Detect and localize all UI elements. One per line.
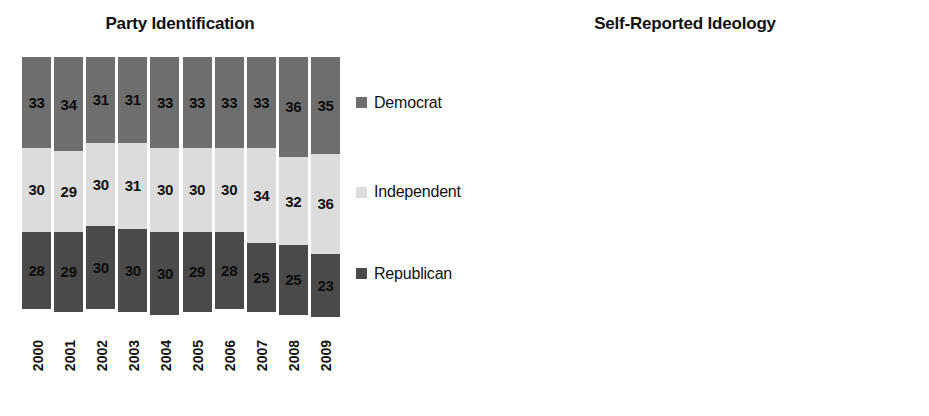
chart-title-party-identification: Party Identification <box>0 14 360 34</box>
x-axis-year-label: 2008 <box>286 340 302 371</box>
bar-column[interactable]: 333425 <box>247 57 276 334</box>
bar-segment-democrat[interactable]: 33 <box>247 57 276 148</box>
bar-column[interactable]: 363225 <box>279 57 308 334</box>
x-axis-year-label: 2007 <box>254 340 270 371</box>
x-axis-year-label: 2004 <box>158 340 174 371</box>
bar-segment-republican[interactable]: 30 <box>118 229 147 312</box>
bar-value-label: 31 <box>125 92 141 107</box>
bar-value-label: 30 <box>125 263 141 278</box>
x-axis-year-label: 2009 <box>318 340 334 371</box>
legend-item-republican[interactable]: Republican <box>356 265 452 283</box>
bar-segment-republican[interactable]: 29 <box>183 232 212 312</box>
chart-page: Party Identification 3330283429293130303… <box>0 0 929 416</box>
x-axis-year-label: 2005 <box>190 340 206 371</box>
bar-segment-democrat[interactable]: 33 <box>215 57 244 148</box>
bar-value-label: 36 <box>285 99 301 114</box>
bar-column[interactable]: 353623 <box>311 57 340 334</box>
bar-value-label: 33 <box>189 95 205 110</box>
chart-panel-self-reported-ideology: Self-Reported Ideology 18371938183918391… <box>465 0 929 416</box>
legend-party-identification: DemocratIndependentRepublican <box>356 57 465 334</box>
chart-title-self-reported-ideology: Self-Reported Ideology <box>505 14 865 34</box>
bar-value-label: 33 <box>157 95 173 110</box>
bar-column[interactable]: 342929 <box>54 57 83 334</box>
bar-segment-democrat[interactable]: 33 <box>150 57 179 148</box>
legend-label: Republican <box>374 265 452 283</box>
bar-value-label: 28 <box>221 263 237 278</box>
bar-column[interactable]: 313030 <box>86 57 115 334</box>
bar-value-label: 29 <box>189 264 205 279</box>
bar-segment-independent[interactable]: 29 <box>54 151 83 231</box>
bar-value-label: 34 <box>61 97 77 112</box>
bar-value-label: 33 <box>29 95 45 110</box>
bar-value-label: 30 <box>93 177 109 192</box>
bar-value-label: 25 <box>253 270 269 285</box>
legend-label: Independent <box>374 183 461 201</box>
bar-value-label: 31 <box>125 178 141 193</box>
bar-value-label: 31 <box>93 92 109 107</box>
bar-column[interactable]: 333030 <box>150 57 179 334</box>
bar-segment-independent[interactable]: 30 <box>215 148 244 231</box>
bar-segment-democrat[interactable]: 31 <box>86 57 115 143</box>
x-axis-year-label: 2003 <box>126 340 142 371</box>
bar-value-label: 30 <box>157 182 173 197</box>
bar-value-label: 35 <box>317 98 333 113</box>
bar-segment-democrat[interactable]: 35 <box>311 57 340 154</box>
plot-area-party-identification: 3330283429293130303131303330303330293330… <box>22 57 340 334</box>
bar-value-label: 30 <box>93 260 109 275</box>
bar-value-label: 36 <box>317 196 333 211</box>
bar-segment-republican[interactable]: 29 <box>54 232 83 312</box>
x-axis-year-label: 2002 <box>94 340 110 371</box>
bar-segment-independent[interactable]: 31 <box>118 143 147 229</box>
legend-swatch-republican-icon <box>356 268 367 279</box>
bar-value-label: 30 <box>189 182 205 197</box>
bar-segment-democrat[interactable]: 31 <box>118 57 147 143</box>
bar-value-label: 23 <box>317 278 333 293</box>
bar-segment-democrat[interactable]: 33 <box>183 57 212 148</box>
legend-item-democrat[interactable]: Democrat <box>356 94 442 112</box>
legend-label: Democrat <box>374 94 442 112</box>
legend-item-independent[interactable]: Independent <box>356 183 461 201</box>
bar-segment-republican[interactable]: 25 <box>279 245 308 314</box>
bar-segment-republican[interactable]: 23 <box>311 254 340 318</box>
bar-value-label: 30 <box>29 182 45 197</box>
x-axis-year-label: 2000 <box>30 340 46 371</box>
bar-segment-democrat[interactable]: 34 <box>54 57 83 151</box>
bar-value-label: 33 <box>253 95 269 110</box>
bar-column[interactable]: 333029 <box>183 57 212 334</box>
bar-segment-independent[interactable]: 30 <box>150 148 179 231</box>
bar-segment-democrat[interactable]: 36 <box>279 57 308 157</box>
bar-segment-republican[interactable]: 28 <box>215 232 244 310</box>
chart-panel-party-identification: Party Identification 3330283429293130303… <box>0 0 465 416</box>
bar-value-label: 28 <box>29 263 45 278</box>
bar-segment-democrat[interactable]: 33 <box>22 57 51 148</box>
bar-segment-independent[interactable]: 34 <box>247 148 276 242</box>
x-axis-year-label: 2001 <box>62 340 78 371</box>
bar-column[interactable]: 333028 <box>22 57 51 334</box>
bar-segment-independent[interactable]: 36 <box>311 154 340 254</box>
legend-swatch-democrat-icon <box>356 97 367 108</box>
legend-swatch-independent-icon <box>356 187 367 198</box>
x-axis-year-label: 2006 <box>222 340 238 371</box>
bar-segment-republican[interactable]: 30 <box>150 232 179 315</box>
bar-value-label: 30 <box>157 266 173 281</box>
bar-segment-republican[interactable]: 30 <box>86 226 115 309</box>
bar-value-label: 30 <box>221 182 237 197</box>
bar-value-label: 34 <box>253 188 269 203</box>
bar-value-label: 29 <box>61 264 77 279</box>
bar-segment-republican[interactable]: 28 <box>22 232 51 310</box>
bar-segment-independent[interactable]: 30 <box>183 148 212 231</box>
bar-value-label: 33 <box>221 95 237 110</box>
bar-value-label: 25 <box>285 272 301 287</box>
bar-segment-republican[interactable]: 25 <box>247 243 276 312</box>
bar-segment-independent[interactable]: 30 <box>22 148 51 231</box>
bar-column[interactable]: 333028 <box>215 57 244 334</box>
bar-segment-independent[interactable]: 30 <box>86 143 115 226</box>
bar-value-label: 32 <box>285 194 301 209</box>
bar-value-label: 29 <box>61 184 77 199</box>
bar-segment-independent[interactable]: 32 <box>279 157 308 246</box>
bar-column[interactable]: 313130 <box>118 57 147 334</box>
